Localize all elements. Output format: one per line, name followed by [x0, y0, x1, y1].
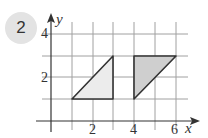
x-tick-4: 4 [130, 122, 137, 137]
x-axis-label: x [184, 120, 192, 136]
x-tick-2: 2 [89, 122, 96, 137]
coordinate-grid-diagram: y x 4 2 2 4 6 [0, 0, 208, 138]
vertical-gridlines [72, 22, 176, 130]
y-axis-label: y [54, 11, 63, 27]
x-tick-6: 6 [171, 122, 178, 137]
y-tick-4: 4 [41, 26, 48, 41]
y-tick-2: 2 [41, 70, 48, 85]
y-axis [47, 13, 55, 132]
